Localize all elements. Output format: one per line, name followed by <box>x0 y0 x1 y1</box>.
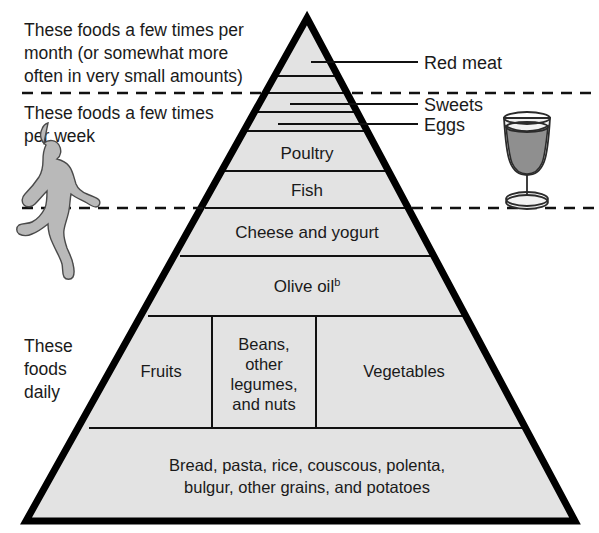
base-label-line-2: bulgur, other grains, and potatoes <box>184 478 430 496</box>
callout-label-red-meat: Red meat <box>424 53 502 73</box>
food-pyramid-diagram: Red meat Sweets Eggs These foods a few t… <box>0 0 599 533</box>
band-label-fish: Fish <box>291 181 323 200</box>
cell-label-beans-line-1: Beans, <box>238 335 289 353</box>
note-weekly-line-1: These foods a few times <box>24 103 214 123</box>
cell-label-beans-line-4: and nuts <box>232 395 295 413</box>
note-daily-line-1: These <box>24 336 73 356</box>
cell-label-vegetables: Vegetables <box>363 362 445 380</box>
band-label-cheese-and-yogurt: Cheese and yogurt <box>235 223 379 242</box>
running-person-icon <box>17 123 100 279</box>
note-weekly-line-2: per week <box>24 126 95 146</box>
note-monthly-line-2: month (or somewhat more <box>24 43 228 63</box>
runner-body <box>17 123 100 279</box>
cell-label-beans-line-3: legumes, <box>231 375 298 393</box>
diagram-canvas: Red meat Sweets Eggs These foods a few t… <box>0 0 599 533</box>
note-daily-line-3: daily <box>24 382 60 402</box>
callout-label-sweets: Sweets <box>424 95 483 115</box>
wine-glass-icon <box>504 112 550 209</box>
note-monthly-line-3: often in very small amounts) <box>24 66 243 86</box>
note-daily-line-2: foods <box>24 359 67 379</box>
band-label-olive-oil-text: Olive oil <box>274 277 334 296</box>
note-monthly-line-1: These foods a few times per <box>24 20 244 40</box>
band-label-poultry: Poultry <box>281 144 334 163</box>
cell-label-beans-line-2: other <box>245 355 283 373</box>
base-label-line-1: Bread, pasta, rice, couscous, polenta, <box>169 456 445 474</box>
band-label-olive-oil: Olive oilb <box>274 276 341 296</box>
cell-label-fruits: Fruits <box>140 362 181 380</box>
band-label-olive-oil-superscript: b <box>334 276 340 288</box>
callout-label-eggs: Eggs <box>424 115 465 135</box>
